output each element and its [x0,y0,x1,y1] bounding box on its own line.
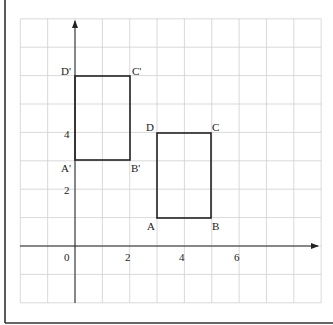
vertex-label-a-prime: A' [61,162,71,174]
vertex-label-a: A [147,220,155,232]
x-tick-label-4: 4 [179,251,185,263]
x-tick-label-0: 0 [64,251,70,263]
vertex-label-c: C [212,121,219,133]
y-tick-label-4: 4 [64,128,70,140]
coordinate-grid-diagram: 0 2 4 6 4 2 D' C' A' B' D C A B [0,0,333,325]
x-tick-label-2: 2 [125,251,131,263]
vertex-label-d-prime: D' [61,65,71,77]
x-tick-label-6: 6 [234,251,240,263]
vertex-label-b-prime: B' [131,162,140,174]
vertex-label-c-prime: C' [132,65,141,77]
vertex-label-d: D [146,121,154,133]
vertex-label-b: B [212,220,219,232]
y-tick-label-2: 2 [64,184,70,196]
